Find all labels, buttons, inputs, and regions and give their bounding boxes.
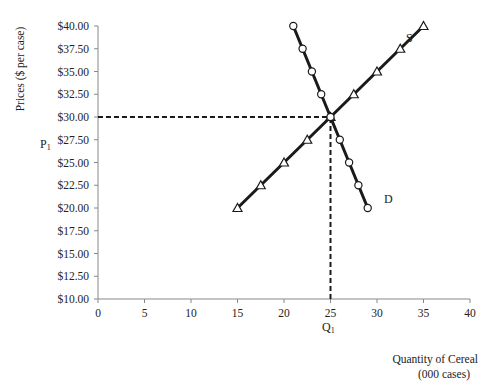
y-tick-label: $10.00 [57, 293, 89, 305]
demand-circle-marker-icon [299, 45, 306, 52]
p1-label: P1 [40, 137, 51, 152]
equilibrium-guides [98, 117, 331, 299]
demand-circle-marker-icon [346, 159, 353, 166]
x-axis-title-line1: Quantity of Cereal [392, 353, 478, 366]
demand-curve-label: D [384, 192, 393, 206]
x-tick-label: 30 [371, 307, 383, 319]
q1-label: Q1 [322, 320, 335, 335]
demand-circle-marker-icon [327, 113, 334, 120]
x-tick-label: 15 [232, 307, 244, 319]
demand-circle-marker-icon [355, 182, 362, 189]
x-tick-label: 25 [325, 307, 337, 319]
supply-triangle-marker-icon [419, 22, 428, 30]
demand-circle-marker-icon [308, 68, 315, 75]
y-tick-label: $37.50 [57, 43, 89, 55]
y-tick-label: $20.00 [57, 202, 89, 214]
supply-curve-label: S [406, 31, 413, 45]
x-tick-label: 10 [185, 307, 197, 319]
demand-circle-marker-icon [364, 204, 371, 211]
x-axis-title-line2: (000 cases) [418, 368, 470, 381]
supply-demand-chart: Prices ($ per case) $10.00$12.50$15.00$1… [0, 0, 498, 387]
y-axis-title: Prices ($ per case) [14, 27, 27, 112]
y-tick-label: $22.50 [57, 179, 89, 191]
demand-circle-marker-icon [336, 136, 343, 143]
y-tick-label: $40.00 [57, 20, 89, 32]
demand-circle-marker-icon [290, 22, 297, 29]
y-tick-label: $32.50 [57, 88, 89, 100]
y-tick-label: $15.00 [57, 248, 89, 260]
y-tick-label: $12.50 [57, 270, 89, 282]
y-tick-label: $17.50 [57, 225, 89, 237]
x-tick-label: 0 [95, 307, 101, 319]
y-tick-label: $27.50 [57, 134, 89, 146]
y-tick-label: $35.00 [57, 66, 89, 78]
y-tick-label: $25.00 [57, 157, 89, 169]
x-tick-label: 5 [142, 307, 148, 319]
y-axis-ticks: $10.00$12.50$15.00$17.50$20.00$22.50$25.… [57, 20, 98, 305]
x-tick-label: 35 [418, 307, 430, 319]
y-tick-label: $30.00 [57, 111, 89, 123]
x-tick-label: 20 [278, 307, 290, 319]
demand-circle-marker-icon [318, 91, 325, 98]
x-tick-label: 40 [464, 307, 476, 319]
x-axis-ticks: 0510152025303540 [95, 299, 476, 319]
